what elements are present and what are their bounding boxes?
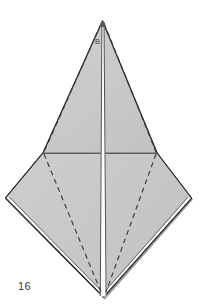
apex-label-b: B: [95, 37, 100, 46]
figure-number: 16: [18, 281, 31, 292]
apex-tip-detail: [99, 20, 106, 27]
origami-figure: B 16: [0, 0, 207, 307]
apex-tip-cap: [99, 20, 106, 27]
origami-diagram-svg: B: [0, 0, 207, 307]
